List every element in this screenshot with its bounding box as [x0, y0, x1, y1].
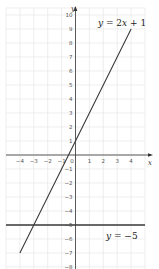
- y-tick-label: −6: [64, 236, 73, 242]
- y-tick-label: 2: [69, 124, 73, 130]
- y-tick-label: −7: [64, 250, 73, 256]
- y-tick-label: 9: [69, 26, 73, 32]
- y-tick-label: −8: [64, 264, 73, 269]
- y-tick-label: 1: [69, 138, 73, 144]
- coordinate-graph: −4−3−2−10123410987654321−1−2−3−4−5−6−7−8…: [0, 0, 159, 269]
- y-tick-label: 8: [69, 40, 73, 46]
- y-tick-label: 4: [69, 96, 73, 102]
- y-tick-label: 6: [69, 68, 73, 74]
- y-tick-label: −3: [64, 194, 73, 200]
- x-tick-label: −2: [44, 158, 52, 164]
- chart-background: [0, 0, 159, 269]
- y-tick-label: 3: [69, 110, 73, 116]
- x-tick-label: 4: [129, 158, 133, 164]
- x-tick-label: 0: [70, 158, 74, 164]
- line-label-minus-5: y = −5: [105, 231, 138, 241]
- x-tick-label: −4: [16, 158, 25, 164]
- y-tick-label: −4: [64, 208, 73, 214]
- x-tick-label: 2: [102, 158, 106, 164]
- y-tick-label: 5: [69, 82, 73, 88]
- x-tick-label: 1: [88, 158, 92, 164]
- y-tick-label: −2: [64, 180, 72, 186]
- x-tick-label: 3: [115, 158, 119, 164]
- y-tick-label: −1: [64, 166, 72, 172]
- x-axis-label: x: [148, 159, 152, 167]
- line-label-2x-plus-1: y = 2x + 1: [97, 18, 146, 28]
- x-tick-label: −3: [30, 158, 39, 164]
- y-tick-label: 7: [69, 54, 73, 60]
